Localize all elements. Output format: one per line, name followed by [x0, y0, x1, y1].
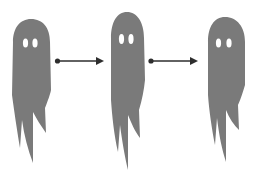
ghost-3: [208, 17, 245, 162]
ghost-1-right-eye: [32, 38, 37, 47]
ghost-3-right-eye: [226, 38, 231, 47]
ghost-3-body: [208, 17, 245, 162]
arrow-1: [55, 57, 104, 65]
ghost-2: [111, 12, 145, 170]
ghost-2-left-eye: [119, 34, 124, 44]
ghost-1-body: [12, 19, 51, 163]
arrow-2-head-icon: [190, 57, 198, 65]
ghost-3-left-eye: [216, 38, 221, 47]
ghost-sequence-diagram: [0, 0, 259, 178]
arrow-2: [148, 57, 198, 65]
ghost-1: [12, 19, 51, 163]
ghost-2-body: [111, 12, 145, 170]
arrow-1-head-icon: [96, 57, 104, 65]
ghost-1-left-eye: [23, 38, 28, 47]
ghost-2-right-eye: [128, 34, 133, 44]
